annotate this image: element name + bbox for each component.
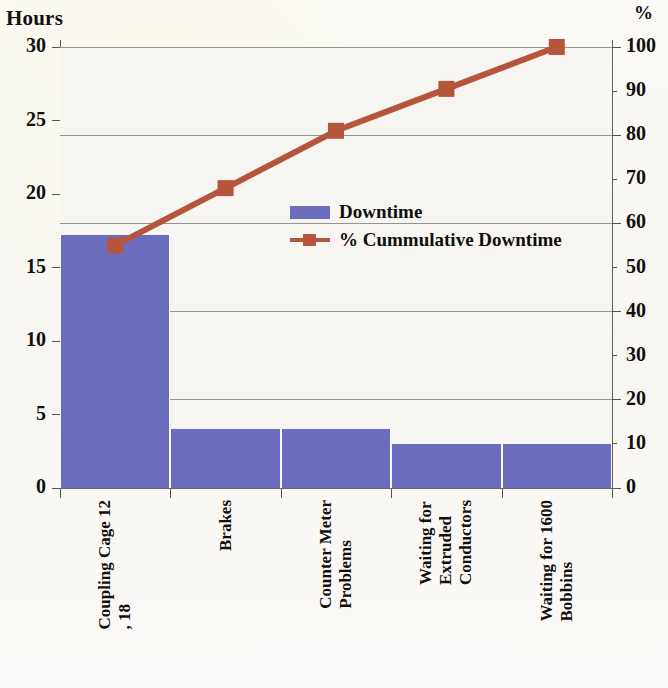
right-axis-tick-label: 50 [626, 255, 668, 278]
right-axis-tick-label: 100 [626, 34, 668, 57]
right-axis-tick [611, 135, 621, 136]
bar [502, 444, 612, 488]
right-axis-tick-label: 70 [626, 166, 668, 189]
category-label: Counter MeterProblems [316, 500, 356, 609]
category-label-line: Brakes [216, 500, 236, 551]
category-label-line: Bobbins [557, 500, 577, 622]
gridline [60, 47, 612, 48]
right-axis-tick-label: 20 [626, 387, 668, 410]
gridline [60, 135, 612, 136]
category-label-line: Conductors [456, 500, 476, 585]
category-label-line: Extruded [436, 500, 456, 585]
left-axis-tick-label: 10 [0, 328, 46, 351]
legend-item-downtime: Downtime [290, 198, 562, 226]
right-axis-tick-label: 80 [626, 122, 668, 145]
category-label-line: Counter Meter [316, 500, 336, 609]
pareto-chart: Hours % 051015202530 0102030405060708090… [0, 0, 668, 688]
line-marker-swatch-icon [290, 233, 330, 247]
right-axis-tick-label: 90 [626, 78, 668, 101]
category-label: Coupling Cage 12, 18 [95, 500, 135, 629]
right-axis-tick-label: 10 [626, 431, 668, 454]
x-axis-tick [612, 488, 613, 498]
right-axis-tick [611, 223, 621, 224]
x-axis-tick [281, 488, 282, 498]
right-axis-tick [611, 311, 621, 312]
bar [170, 429, 280, 488]
bar [281, 429, 391, 488]
right-axis-tick-label: 30 [626, 343, 668, 366]
chart-legend: Downtime % Cummulative Downtime [290, 198, 562, 254]
x-axis-tick [391, 488, 392, 498]
x-axis-tick [502, 488, 503, 498]
bar-swatch-icon [290, 206, 330, 219]
category-label: Waiting forExtrudedConductors [416, 500, 476, 585]
legend-label-cummulative-downtime: % Cummulative Downtime [339, 229, 562, 251]
category-label-line: Coupling Cage 12 [95, 500, 115, 629]
plot-area [60, 47, 612, 488]
right-axis-tick-label: 60 [626, 210, 668, 233]
category-label-line: , 18 [115, 500, 135, 629]
right-axis-title: % [634, 2, 653, 24]
right-axis-tick-label: 40 [626, 299, 668, 322]
left-axis-title: Hours [6, 6, 63, 31]
left-axis-tick-label: 25 [0, 108, 46, 131]
left-axis-tick-label: 20 [0, 181, 46, 204]
category-label: Waiting for 1600Bobbins [537, 500, 577, 622]
right-axis-tick-label: 0 [626, 475, 668, 498]
left-axis-tick-label: 5 [0, 402, 46, 425]
right-axis-tick [611, 399, 621, 400]
left-axis-tick-label: 0 [0, 475, 46, 498]
x-axis-tick [60, 488, 61, 498]
category-label-line: Waiting for 1600 [537, 500, 557, 622]
left-axis-tick-label: 15 [0, 255, 46, 278]
legend-item-cummulative-downtime: % Cummulative Downtime [290, 226, 562, 254]
category-label-line: Problems [336, 500, 356, 609]
category-label: Brakes [216, 500, 236, 551]
left-axis-tick-label: 30 [0, 34, 46, 57]
bar [60, 235, 170, 488]
right-axis-tick [611, 47, 621, 48]
category-label-line: Waiting for [416, 500, 436, 585]
x-axis-tick [170, 488, 171, 498]
legend-label-downtime: Downtime [339, 201, 422, 223]
bar [391, 444, 501, 488]
